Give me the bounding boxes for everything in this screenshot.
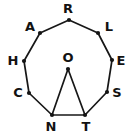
vertex-label-s: S [112,86,121,99]
vertex-label-c: C [13,86,23,99]
vertex-dot-e [110,58,114,62]
center-chords [52,69,85,115]
polygon-edge-c-h [24,61,29,93]
vertex-label-l: L [105,20,113,33]
polygon-edge-r-l [69,20,98,33]
vertex-dots [22,18,114,117]
center-label-o: O [62,51,73,64]
polygon-edge-s-t [85,92,107,115]
nonagon-diagram: RLESTNCHAO [0,0,131,134]
vertex-dot-r [67,18,71,22]
vertex-dot-l [96,31,100,35]
polygon-edge-a-r [40,20,69,33]
chord-o-n [52,69,68,115]
vertex-label-n: N [46,120,57,133]
vertex-dot-c [27,91,31,95]
vertex-dot-a [38,31,42,35]
vertex-dot-t [83,113,87,117]
vertex-label-h: H [8,54,19,67]
vertex-dot-n [50,113,54,117]
polygon-edge-e-s [107,60,112,92]
center-dot-o [66,67,70,71]
vertex-label-e: E [117,54,126,67]
polygon-edge-n-c [29,93,52,115]
vertex-label-a: A [25,20,35,33]
polygon-edge-l-e [98,33,112,60]
polygon-edge-h-a [24,33,40,61]
chord-o-t [68,69,85,115]
vertex-dot-h [22,59,26,63]
vertex-label-t: T [82,120,91,133]
vertex-label-r: R [63,2,73,15]
vertex-dot-s [105,90,109,94]
